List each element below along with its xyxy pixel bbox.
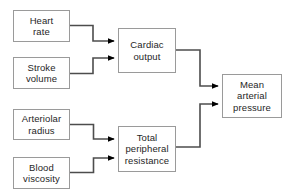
node-cardiac-output-label: Cardiac output [119,39,175,62]
node-heart-rate: Heart rate [13,10,70,42]
node-total-peripheral-resistance: Total peripheral resistance [118,126,176,172]
edge-stroke-volume-to-cardiac-output [70,58,114,74]
node-mean-arterial-pressure: Mean arterial pressure [222,74,282,118]
node-cardiac-output: Cardiac output [118,28,176,73]
node-arteriolar-radius-label: Arteriolar radius [14,113,69,136]
edge-arteriolar-radius-to-tpr [70,125,114,140]
node-arteriolar-radius: Arteriolar radius [13,109,70,140]
node-total-peripheral-resistance-label: Total peripheral resistance [119,132,175,167]
edge-blood-viscosity-to-tpr [70,158,114,173]
edge-heart-rate-to-cardiac-output [70,26,114,42]
node-mean-arterial-pressure-label: Mean arterial pressure [223,79,281,114]
edge-tpr-to-map [176,104,218,147]
flowchart-diagram: Heart rate Stroke volume Cardiac output … [0,0,287,196]
node-stroke-volume: Stroke volume [13,57,70,89]
node-heart-rate-label: Heart rate [14,15,69,38]
node-blood-viscosity-label: Blood viscosity [14,162,69,185]
node-stroke-volume-label: Stroke volume [14,62,69,85]
edge-cardiac-output-to-map [176,50,218,86]
node-blood-viscosity: Blood viscosity [13,157,70,189]
